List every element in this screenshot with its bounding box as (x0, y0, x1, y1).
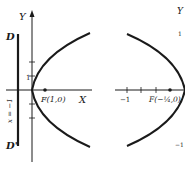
parabola-figures: Y X D D' 1 F(1,0) x = −1 Y 1 −1 −1 F(−¼,… (0, 0, 185, 169)
y-axis-arrow-icon (30, 10, 35, 17)
y-axis-label: Y (19, 11, 27, 22)
focus-label: F(1,0) (40, 95, 66, 104)
directrix-equation: x = −1 (6, 98, 14, 123)
tick-label-x-neg1: −1 (120, 96, 130, 104)
left-parabola-figure: Y X D D' 1 F(1,0) x = −1 (5, 10, 92, 162)
y-axis-label-right: Y (177, 6, 184, 16)
right-parabola-figure: Y 1 −1 −1 F(−¼,0) (115, 6, 185, 148)
focus-point-right (168, 88, 172, 92)
tick-label-y-neg1: −1 (175, 141, 184, 148)
x-axis-label: X (78, 94, 87, 105)
tick-label-1: 1 (26, 74, 30, 82)
focus-label-right: F(−¼,0) (148, 95, 181, 104)
directrix-top-label: D (5, 31, 15, 42)
focus-point (43, 88, 47, 92)
directrix-bottom-label: D' (5, 140, 18, 151)
tick-label-y-1: 1 (178, 30, 182, 37)
